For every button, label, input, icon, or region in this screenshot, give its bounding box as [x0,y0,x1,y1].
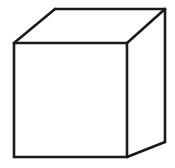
cube-drawing: Black outline drawing of a three-dimensi… [0,0,175,168]
cube-figure-canvas: Black outline drawing of a three-dimensi… [0,0,175,168]
cube-face-front [14,43,127,157]
